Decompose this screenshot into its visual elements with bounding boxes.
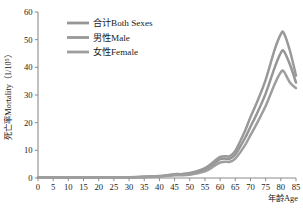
x-tick-label: 20 <box>94 182 103 192</box>
x-tick-label: 70 <box>246 182 255 192</box>
x-tick-label: 0 <box>36 182 40 192</box>
series-line-1 <box>38 50 296 177</box>
x-tick-label: 40 <box>155 182 164 192</box>
x-tick-label: 25 <box>110 182 119 192</box>
y-tick-label: 10 <box>24 145 33 155</box>
x-tick-label: 30 <box>125 182 134 192</box>
y-tick-label: 30 <box>24 90 33 100</box>
x-tick-label: 45 <box>170 182 179 192</box>
y-tick-label: 0 <box>28 173 32 183</box>
x-tick-label: 35 <box>140 182 149 192</box>
x-tick-label: 65 <box>231 182 240 192</box>
x-tick-label: 55 <box>201 182 210 192</box>
legend-label-2: 男性Male <box>93 32 130 43</box>
x-tick-label: 50 <box>185 182 194 192</box>
legend-label-3: 女性Female <box>93 46 138 57</box>
y-tick-label: 60 <box>24 7 33 17</box>
x-tick-label: 85 <box>292 182 301 192</box>
mortality-by-age-chart: 0102030405060 05101520253035404550556065… <box>0 0 303 208</box>
legend-label-1: 合计Both Sexes <box>93 17 153 28</box>
x-tick-label: 75 <box>261 182 270 192</box>
x-tick-label: 10 <box>64 182 73 192</box>
x-axis-tick-group: 0510152025303540455055606570758085 <box>36 178 300 192</box>
y-tick-label: 50 <box>24 35 33 45</box>
x-tick-label: 60 <box>216 182 225 192</box>
x-tick-label: 15 <box>79 182 88 192</box>
y-tick-label: 40 <box>24 62 33 72</box>
x-tick-label: 80 <box>277 182 286 192</box>
x-tick-label: 5 <box>51 182 55 192</box>
chart-canvas: 0102030405060 05101520253035404550556065… <box>0 0 303 208</box>
x-axis-title: 年龄Age <box>268 193 298 203</box>
series-line-3 <box>38 70 296 177</box>
y-axis-title: 死亡率Mortality（1/10⁵） <box>3 50 13 139</box>
y-tick-label: 20 <box>24 118 33 128</box>
y-axis-tick-group: 0102030405060 <box>24 7 38 183</box>
chart-legend: 合计Both Sexes男性Male女性Female <box>67 17 153 57</box>
